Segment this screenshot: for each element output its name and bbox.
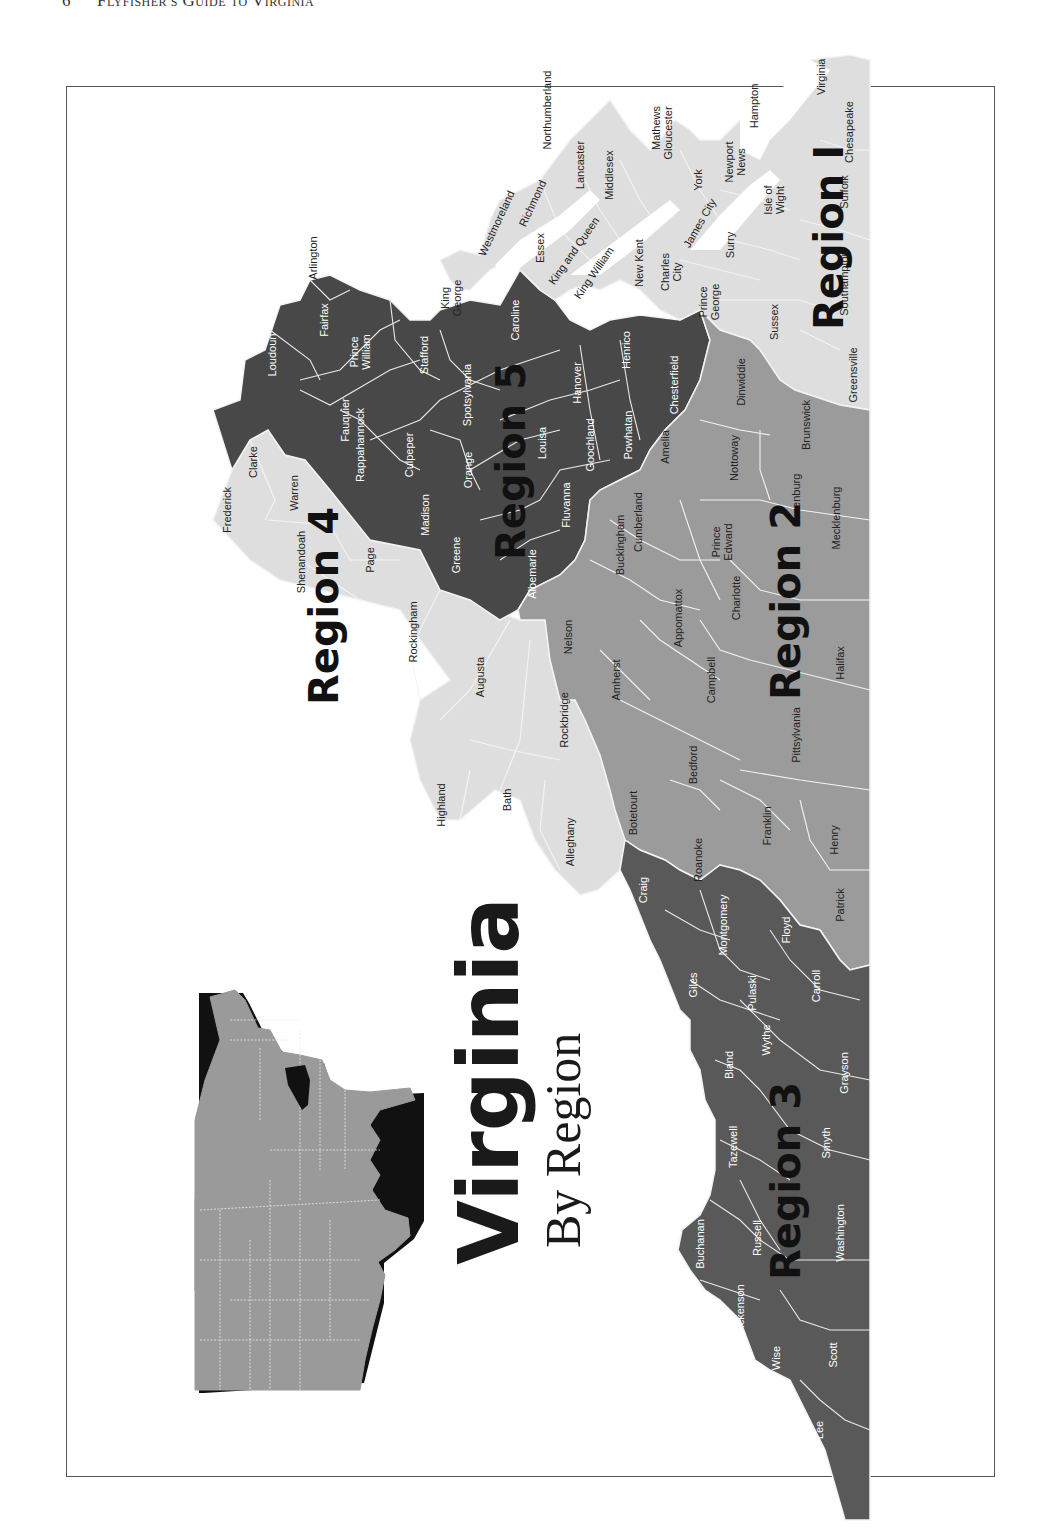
county-label-essex: Essex xyxy=(534,233,546,263)
county-label-york: York xyxy=(692,169,704,191)
county-label-frederick: Frederick xyxy=(221,487,233,533)
county-label-caroline: Caroline xyxy=(509,300,521,341)
county-label-isle-of-wight-1: Isle of xyxy=(762,184,774,214)
county-label-culpeper: Culpeper xyxy=(403,432,415,477)
county-label-botetourt: Botetourt xyxy=(627,791,639,836)
county-label-orange: Orange xyxy=(462,452,474,489)
county-label-greene: Greene xyxy=(450,537,462,574)
county-label-dickenson: Dickenson xyxy=(734,1284,746,1335)
county-label-mathews: Mathews xyxy=(650,105,662,150)
county-label-king-george-2: George xyxy=(451,280,463,317)
virginia-region-map: Virginia Chesapeake Hampton Suffolk Newp… xyxy=(0,0,1049,1532)
county-label-montgomery: Montgomery xyxy=(717,894,729,956)
county-label-appomattox: Appomattox xyxy=(672,588,684,647)
region-label-1: Region I xyxy=(806,145,852,330)
county-label-russell: Russell xyxy=(751,1220,763,1256)
county-label-grayson: Grayson xyxy=(838,1052,850,1094)
region-label-4: Region 4 xyxy=(301,507,347,705)
county-label-brunswick: Brunswick xyxy=(800,399,812,450)
county-label-cumberland: Cumberland xyxy=(632,492,644,552)
county-label-highland: Highland xyxy=(435,783,447,826)
county-label-buchanan: Buchanan xyxy=(694,1219,706,1269)
county-label-stafford: Stafford xyxy=(418,336,430,374)
county-label-clarke: Clarke xyxy=(247,446,259,478)
county-label-charlotte: Charlotte xyxy=(730,576,742,621)
county-label-prince-william-2: William xyxy=(360,334,372,369)
county-label-nottoway: Nottoway xyxy=(728,435,740,481)
county-label-prince-george-1: Prince xyxy=(697,286,709,317)
county-label-newport-news-2: News xyxy=(735,148,747,176)
county-label-rappahannock: Rappahannock xyxy=(354,408,366,483)
region-label-3: Region 3 xyxy=(763,1082,809,1280)
county-label-virginia-beach: Virginia xyxy=(815,58,827,95)
county-label-rockingham: Rockingham xyxy=(407,601,419,662)
county-label-craig: Craig xyxy=(637,877,649,903)
county-label-charles-city-2: City xyxy=(671,262,683,281)
county-label-new-kent: New Kent xyxy=(633,239,645,287)
county-label-roanoke: Roanoke xyxy=(692,838,704,882)
county-label-warren: Warren xyxy=(288,475,300,511)
county-label-fairfax: Fairfax xyxy=(318,303,330,337)
us-inset-map xyxy=(195,990,424,1393)
county-label-bland: Bland xyxy=(723,1051,735,1079)
map-title: Virginia By Region xyxy=(440,897,591,1265)
county-label-fauquier: Fauquier xyxy=(339,398,351,442)
county-label-smyth: Smyth xyxy=(820,1127,832,1158)
county-label-gloucester: Gloucester xyxy=(662,106,674,160)
county-label-king-george-1: King xyxy=(439,287,451,309)
region-label-2: Region 2 xyxy=(763,502,809,700)
county-label-powhatan: Powhatan xyxy=(622,411,634,460)
county-label-henrico: Henrico xyxy=(620,331,632,369)
county-label-prince-george-2: George xyxy=(709,284,721,321)
county-label-giles: Giles xyxy=(687,972,699,998)
county-label-newport-news-1: Newport xyxy=(723,142,735,183)
county-label-buckingham: Buckingham xyxy=(614,515,626,576)
county-label-amelia: Amelia xyxy=(659,429,671,464)
county-label-tazewell: Tazewell xyxy=(727,1126,739,1168)
county-label-wise: Wise xyxy=(770,1346,782,1370)
county-label-loudoun: Loudoun xyxy=(266,334,278,377)
title-by-region: By Region xyxy=(535,1033,591,1248)
region-label-5: Region 5 xyxy=(488,362,534,560)
county-label-amherst: Amherst xyxy=(610,660,622,701)
county-label-middlesex: Middlesex xyxy=(603,150,615,200)
county-label-lancaster: Lancaster xyxy=(574,141,586,190)
county-label-franklin: Franklin xyxy=(761,806,773,845)
county-label-prince-edward-1: Prince xyxy=(710,526,722,557)
county-label-henry: Henry xyxy=(828,825,840,855)
county-label-pulaski: Pulaski xyxy=(746,975,758,1010)
county-label-halifax: Halifax xyxy=(834,646,846,680)
county-label-page: Page xyxy=(364,547,376,573)
county-label-charles-city-1: Charles xyxy=(659,253,671,291)
county-label-augusta: Augusta xyxy=(474,656,486,697)
county-label-mecklenburg: Mecklenburg xyxy=(830,487,842,550)
county-label-sussex: Sussex xyxy=(768,303,780,340)
county-label-isle-of-wight-2: Wight xyxy=(774,186,786,214)
county-label-carroll: Carroll xyxy=(810,970,822,1002)
county-label-fluvanna: Fluvanna xyxy=(560,481,572,527)
county-label-pittsylvania: Pittsylvania xyxy=(790,706,802,763)
county-label-patrick: Patrick xyxy=(834,888,846,922)
county-label-bath: Bath xyxy=(501,789,513,812)
county-label-rockbridge: Rockbridge xyxy=(558,692,570,748)
county-label-goochland: Goochland xyxy=(584,418,596,471)
county-label-lee: Lee xyxy=(813,1421,825,1439)
county-label-prince-edward-2: Edward xyxy=(722,523,734,560)
county-label-bedford: Bedford xyxy=(687,746,699,785)
county-label-hanover: Hanover xyxy=(571,362,583,404)
county-label-northumberland: Northumberland xyxy=(541,71,553,150)
county-label-campbell: Campbell xyxy=(705,657,717,703)
county-label-wythe: Wythe xyxy=(760,1024,772,1055)
county-label-washington: Washington xyxy=(834,1204,846,1262)
county-label-hampton: Hampton xyxy=(748,84,760,129)
county-label-chesterfield: Chesterfield xyxy=(668,356,680,415)
county-label-alleghany: Alleghany xyxy=(564,817,576,866)
county-label-scott: Scott xyxy=(827,1342,839,1367)
county-label-louisa: Louisa xyxy=(536,426,548,459)
county-label-nelson: Nelson xyxy=(562,620,574,654)
county-label-dinwiddie: Dinwiddie xyxy=(735,358,747,406)
title-virginia: Virginia xyxy=(440,897,538,1265)
county-label-surry: Surry xyxy=(724,231,736,258)
county-label-greensville: Greensville xyxy=(847,347,859,402)
county-label-spotsylvania: Spotsylvania xyxy=(461,363,473,426)
